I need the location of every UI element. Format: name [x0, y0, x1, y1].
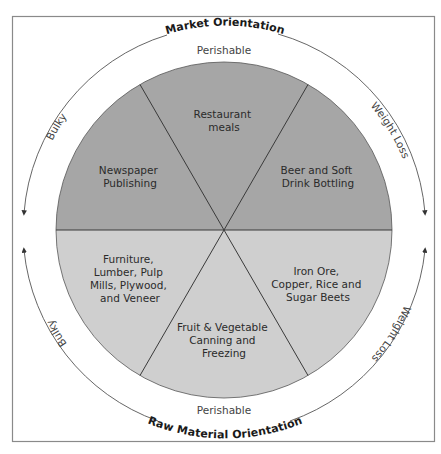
- perishable-top-label: Perishable: [197, 44, 251, 56]
- location-orientation-diagram: Market Orientation Raw Material Orientat…: [0, 0, 441, 454]
- perishable-bottom-label: Perishable: [197, 404, 251, 416]
- segment-newspaper-publishing: Newspaper Publishing: [99, 164, 161, 189]
- segment-beer-soft-drink: Beer and Soft Drink Bottling: [281, 164, 356, 189]
